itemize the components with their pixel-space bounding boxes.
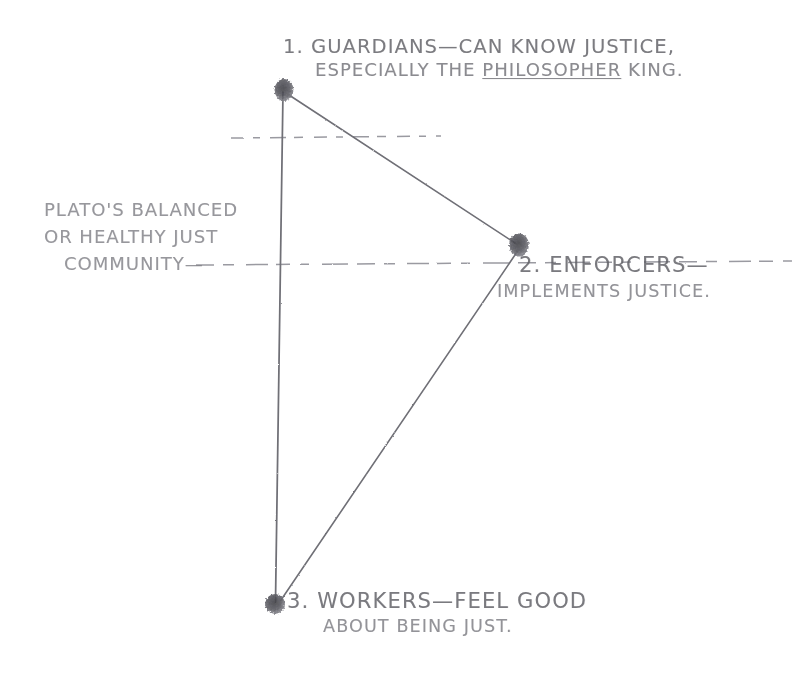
- triangle-sketch: [0, 0, 801, 690]
- node-dot-workers[interactable]: [265, 594, 285, 614]
- edge-enforcers-workers: [281, 252, 517, 600]
- edge-guardians-enforcers: [289, 95, 515, 243]
- upper-dashed-guide-line: [231, 136, 441, 138]
- node-dot-guardians[interactable]: [275, 79, 294, 101]
- label-workers: 3. WORKERS—FEEL GOODABOUT BEING JUST.: [287, 590, 587, 636]
- label-workers-line1: 3. WORKERS—FEEL GOOD: [287, 589, 587, 613]
- label-community-line2: OR HEALTHY JUST: [44, 223, 238, 250]
- triangle-edges: [276, 92, 518, 602]
- label-enforcers: 2. ENFORCERS—IMPLEMENTS JUSTICE.: [519, 254, 711, 301]
- label-guardians-line2-suffix: KING.: [621, 59, 683, 80]
- label-enforcers-line2: IMPLEMENTS JUSTICE.: [497, 282, 711, 302]
- label-guardians-line1: 1. GUARDIANS—CAN KNOW JUSTICE,: [283, 35, 675, 58]
- diagram-canvas: 1. GUARDIANS—CAN KNOW JUSTICE,ESPECIALLY…: [0, 0, 801, 690]
- label-enforcers-line1: 2. ENFORCERS—: [519, 253, 709, 277]
- label-community-line3: COMMUNITY—: [64, 250, 238, 277]
- edge-guardians-workers: [276, 92, 284, 602]
- label-workers-line2: ABOUT BEING JUST.: [323, 617, 587, 637]
- label-guardians-philosopher-underlined: PHILOSOPHER: [482, 59, 621, 80]
- label-guardians: 1. GUARDIANS—CAN KNOW JUSTICE,ESPECIALLY…: [283, 36, 684, 80]
- label-plato-community: PLATO'S BALANCEDOR HEALTHY JUSTCOMMUNITY…: [44, 196, 238, 277]
- label-community-line1: PLATO'S BALANCED: [44, 199, 238, 220]
- label-guardians-line2: ESPECIALLY THE PHILOSOPHER KING.: [315, 60, 684, 80]
- guide-lines: [196, 136, 793, 265]
- label-guardians-line2-prefix: ESPECIALLY THE: [315, 59, 482, 80]
- triangle-nodes: [265, 79, 529, 614]
